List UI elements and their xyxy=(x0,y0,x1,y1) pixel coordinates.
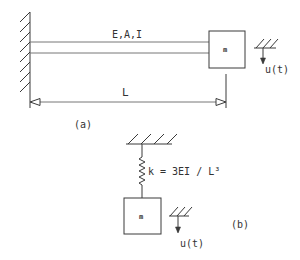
fixed-wall-support xyxy=(20,12,30,96)
cantilever-beam xyxy=(30,42,209,53)
cantilever-sdof-diagram: E,A,I m u(t) L (a) k = 3EI / L³ m xyxy=(0,0,300,260)
spring xyxy=(139,144,145,198)
ground-reference-b xyxy=(169,207,192,216)
ground-reference-a xyxy=(254,39,278,48)
beam-properties-label: E,A,I xyxy=(112,29,142,40)
caption-a: (a) xyxy=(74,119,92,130)
mass-label-b: m xyxy=(139,213,143,221)
caption-b: (b) xyxy=(231,219,249,230)
displacement-label-b: u(t) xyxy=(180,238,204,249)
displacement-arrow-b xyxy=(176,216,181,233)
fixed-ceiling-support xyxy=(126,134,177,144)
displacement-label-a: u(t) xyxy=(265,64,289,75)
displacement-arrow-a xyxy=(261,48,266,64)
spring-stiffness-label: k = 3EI / L³ xyxy=(148,166,220,177)
length-label: L xyxy=(122,86,129,99)
mass-label-a: m xyxy=(223,46,227,54)
